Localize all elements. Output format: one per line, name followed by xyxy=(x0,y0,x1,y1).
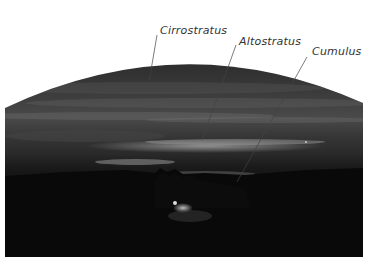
cumulus-label: Cumulus xyxy=(312,45,362,58)
cirrostratus-label: Cirrostratus xyxy=(160,24,227,37)
altostratus-label: Altostratus xyxy=(239,35,301,48)
cirrostratus-leader-line xyxy=(149,35,157,82)
altostratus-leader-line xyxy=(202,45,236,140)
leader-lines xyxy=(0,0,371,266)
cumulus-leader-line xyxy=(237,57,307,182)
